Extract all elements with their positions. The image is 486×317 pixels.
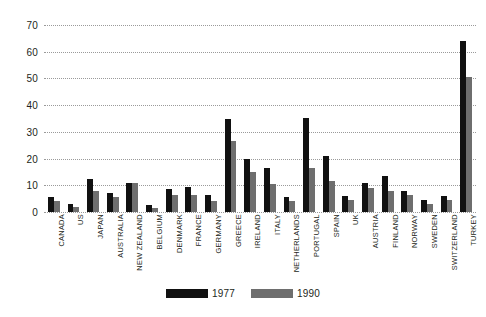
legend-entry-1990[interactable]: 1990	[251, 288, 320, 299]
x-tick-label: BELGIUM	[155, 214, 164, 249]
x-tick-label: SWEDEN	[430, 214, 439, 248]
x-tick-label: TURKEY	[469, 214, 478, 246]
bar-group	[225, 25, 237, 212]
chart-legend: 19771990	[0, 288, 486, 299]
bar-1990	[250, 172, 256, 212]
x-tick-label: US	[76, 214, 85, 225]
bar-group	[146, 25, 158, 212]
legend-entry-1977[interactable]: 1977	[166, 288, 235, 299]
bar-1990	[231, 141, 237, 212]
bar-group	[460, 25, 472, 212]
bar-chart-figure: 010203040506070 CANADAUSJAPANAUSTRALIANE…	[0, 0, 486, 317]
x-tick-label: IRELAND	[253, 214, 262, 248]
bar-1990	[368, 188, 374, 212]
x-tick-label: NETHERLANDS	[292, 214, 301, 272]
bar-group	[401, 25, 413, 212]
y-axis: 010203040506070	[0, 25, 38, 212]
bar-group	[323, 25, 335, 212]
bar-group	[68, 25, 80, 212]
bar-group	[87, 25, 99, 212]
x-tick-label: AUSTRALIA	[116, 214, 125, 258]
y-tick-label: 50	[26, 73, 38, 84]
bar-1990	[54, 201, 60, 212]
x-tick-label: UK	[351, 214, 360, 225]
y-tick-label: 60	[26, 46, 38, 57]
x-tick-label: CANADA	[57, 214, 66, 247]
y-tick-label: 70	[26, 20, 38, 31]
x-tick-label: PORTUGAL	[312, 214, 321, 257]
x-axis: CANADAUSJAPANAUSTRALIANEW ZEALANDBELGIUM…	[44, 212, 476, 290]
x-tick-label: FINLAND	[391, 214, 400, 248]
x-tick-label: SPAIN	[332, 214, 341, 237]
bar-group	[362, 25, 374, 212]
x-tick-label: NORWAY	[410, 214, 419, 248]
bar-group	[342, 25, 354, 212]
bar-1990	[132, 183, 138, 212]
y-tick-label: 30	[26, 126, 38, 137]
bar-1990	[388, 191, 394, 212]
bar-group	[284, 25, 296, 212]
x-tick-label: DENMARK	[175, 214, 184, 253]
bar-group	[264, 25, 276, 212]
bar-1990	[191, 195, 197, 212]
bar-group	[441, 25, 453, 212]
y-tick-label: 40	[26, 100, 38, 111]
bar-group	[166, 25, 178, 212]
legend-swatch	[251, 289, 293, 298]
x-tick-label: GREECE	[234, 214, 243, 247]
bar-1990	[93, 191, 99, 212]
bar-1990	[329, 181, 335, 212]
bar-1990	[407, 195, 413, 212]
bar-group	[382, 25, 394, 212]
bar-group	[205, 25, 217, 212]
bar-1990	[348, 200, 354, 212]
x-tick-label: ITALY	[273, 214, 282, 235]
bar-1990	[113, 197, 119, 212]
x-tick-label: NEW ZEALAND	[135, 214, 144, 271]
legend-label: 1977	[212, 288, 235, 299]
bar-group	[303, 25, 315, 212]
bar-group	[421, 25, 433, 212]
bar-group	[126, 25, 138, 212]
legend-label: 1990	[297, 288, 320, 299]
y-tick-label: 10	[26, 180, 38, 191]
bar-1990	[289, 201, 295, 212]
bar-1990	[309, 168, 315, 212]
x-tick-label: GERMANY	[214, 214, 223, 253]
bar-group	[185, 25, 197, 212]
bar-1990	[270, 184, 276, 212]
y-tick-label: 0	[32, 207, 38, 218]
x-tick-label: AUSTRIA	[371, 214, 380, 248]
legend-swatch	[166, 289, 208, 298]
bars-layer	[44, 25, 476, 212]
x-tick-label: FRANCE	[194, 214, 203, 246]
x-tick-label: JAPAN	[96, 214, 105, 239]
bar-group	[244, 25, 256, 212]
bar-1990	[211, 201, 217, 212]
y-tick-label: 20	[26, 153, 38, 164]
bar-1990	[172, 195, 178, 212]
bar-1990	[427, 204, 433, 212]
bar-1990	[466, 77, 472, 212]
bar-group	[48, 25, 60, 212]
x-tick-label: SWITZERLAND	[450, 214, 459, 270]
bar-group	[107, 25, 119, 212]
bar-1990	[447, 200, 453, 212]
